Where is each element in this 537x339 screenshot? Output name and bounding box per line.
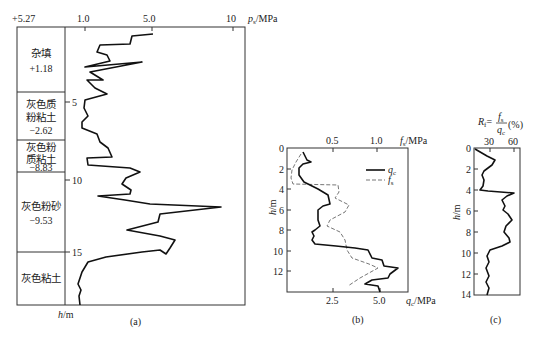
y-axis-label: h/m: [451, 204, 462, 220]
layer-name: 灰色粉砂: [21, 200, 62, 212]
y-tick-label: 8: [279, 225, 284, 236]
x-axis-label: ps/MPa: [247, 13, 278, 26]
ps-curve: [78, 34, 221, 305]
y-tick-label: 0: [279, 143, 284, 154]
ratio-denominator: qc: [497, 124, 505, 137]
y-tick-label: 10: [461, 248, 471, 259]
legend: qc fs: [366, 164, 396, 187]
y-ticks: [474, 169, 478, 274]
layer-name: 杂填: [31, 47, 52, 59]
x-tick-label: 10: [226, 13, 236, 24]
y-tick-label: 10: [273, 246, 283, 257]
y-tick-label: 6: [279, 205, 284, 216]
y-tick-label: 8: [466, 227, 471, 238]
panel-caption: (c): [490, 314, 501, 326]
y-tick-label: 2: [279, 164, 284, 175]
y-tick-label: 10: [72, 175, 82, 186]
x-top-axis-label: fs/MPa: [400, 135, 428, 148]
y-tick-label: 4: [466, 185, 471, 196]
layer-name: 灰色粉: [26, 141, 57, 153]
panel-b: 0.5 1.0 fs/MPa 2.5 5.0 qc/MPa 0 2 4 6 8 …: [267, 135, 436, 326]
y-tick-label: 0: [466, 143, 471, 154]
x-bottom-axis-label: qc/MPa: [406, 295, 436, 308]
x-top-tick-label: 0.5: [326, 135, 339, 146]
ratio-numerator: fs: [498, 111, 504, 124]
qc-curve: [299, 152, 398, 292]
panel-a: +5.27 1.0 5.0 10 ps/MPa 5 10 15 杂填 +1.18…: [12, 13, 278, 328]
layer-elevation: −9.53: [29, 215, 52, 226]
figure: +5.27 1.0 5.0 10 ps/MPa 5 10 15 杂填 +1.18…: [0, 0, 537, 339]
panel-c: Rf= fs qc (%) 30 60 0 2 4 6 8 10 12 14 h…: [451, 111, 523, 326]
layer-name: 灰色粘土: [21, 272, 61, 284]
layer-elevation: −8.83: [29, 162, 52, 173]
panel-c-frame: [474, 148, 520, 295]
unit-label: (%): [508, 119, 523, 131]
y-tick-label: 12: [461, 269, 471, 280]
x-axis-label: Rf=: [477, 116, 492, 129]
y-tick-label: 15: [72, 247, 82, 258]
x-tick-label: 30: [484, 136, 494, 147]
layer-name: 粉粘土: [26, 111, 56, 123]
x-tick-label: 5.0: [143, 13, 156, 24]
y-tick-label: 12: [273, 266, 283, 277]
y-tick-label: 4: [279, 184, 284, 195]
y-tick-label: 5: [72, 97, 77, 108]
x-bottom-tick-label: 5.0: [373, 295, 386, 306]
x-bottom-tick-label: 2.5: [326, 295, 339, 306]
layer-elevation: −2.62: [29, 125, 52, 136]
y-axis-label: h/m: [58, 309, 74, 320]
fs-curve: [291, 154, 378, 286]
y-tick-label: 14: [461, 289, 471, 300]
y-tick-label: 6: [466, 206, 471, 217]
x-top-tick-label: 1.0: [370, 135, 383, 146]
y-ticks: [287, 169, 291, 271]
y-tick-label: 2: [466, 164, 471, 175]
panel-caption: (a): [130, 316, 141, 328]
top-elevation-label: +5.27: [12, 13, 35, 24]
layer-elevation: +1.18: [29, 63, 52, 74]
panel-caption: (b): [352, 314, 364, 326]
y-axis-label: h/m: [267, 199, 278, 215]
x-tick-label: 1.0: [77, 13, 90, 24]
rf-curve: [475, 149, 514, 295]
x-tick-label: 60: [508, 136, 518, 147]
layer-name: 灰色质: [26, 98, 56, 110]
